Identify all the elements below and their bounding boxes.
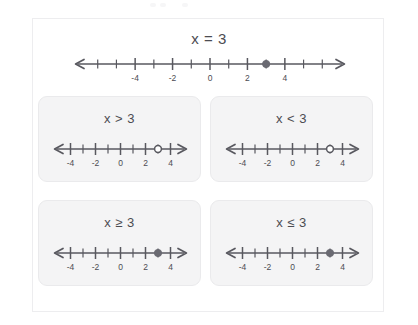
svg-text:0: 0: [290, 158, 295, 168]
svg-text:4: 4: [340, 262, 345, 272]
svg-text:-4: -4: [67, 158, 75, 168]
number-line-greater-or-equal: -4-2024: [49, 241, 192, 275]
svg-text:-2: -2: [169, 73, 177, 83]
svg-text:2: 2: [143, 262, 148, 272]
number-line-equals: -4-2024: [70, 52, 350, 86]
number-line-greater-than: -4-2024: [49, 137, 192, 171]
card-label: x ≥ 3: [39, 215, 200, 230]
card-less-than[interactable]: x < 3 -4-2024: [210, 96, 373, 182]
svg-text:4: 4: [168, 158, 173, 168]
scan-artifact: [160, 3, 166, 7]
svg-text:0: 0: [118, 262, 123, 272]
card-label: x ≤ 3: [211, 215, 372, 230]
svg-text:2: 2: [143, 158, 148, 168]
svg-text:2: 2: [245, 73, 250, 83]
svg-text:4: 4: [282, 73, 287, 83]
card-label: x < 3: [211, 111, 372, 126]
scan-artifact: [150, 3, 156, 7]
svg-text:0: 0: [118, 158, 123, 168]
card-less-or-equal[interactable]: x ≤ 3 -4-2024: [210, 200, 373, 286]
svg-text:0: 0: [290, 262, 295, 272]
svg-text:2: 2: [315, 262, 320, 272]
svg-text:-2: -2: [264, 158, 272, 168]
number-line-less-or-equal: -4-2024: [221, 241, 364, 275]
svg-text:-2: -2: [92, 262, 100, 272]
card-greater-or-equal[interactable]: x ≥ 3 -4-2024: [38, 200, 201, 286]
svg-text:-4: -4: [239, 158, 247, 168]
svg-text:2: 2: [315, 158, 320, 168]
card-label: x > 3: [39, 111, 200, 126]
inequality-card-grid: x > 3 -4-2024 x < 3 -4-2024 x ≥ 3 -4-202…: [38, 96, 380, 296]
svg-text:-4: -4: [131, 73, 139, 83]
figure-root: x = 3 -4-2024 x > 3 -4-2024 x < 3 -4-202…: [0, 0, 418, 325]
scan-artifact: [182, 3, 188, 7]
page-title: x = 3: [0, 30, 418, 47]
number-line-less-than: -4-2024: [221, 137, 364, 171]
svg-text:-4: -4: [239, 262, 247, 272]
svg-text:-4: -4: [67, 262, 75, 272]
svg-text:0: 0: [208, 73, 213, 83]
svg-text:-2: -2: [92, 158, 100, 168]
card-greater-than[interactable]: x > 3 -4-2024: [38, 96, 201, 182]
svg-text:4: 4: [340, 158, 345, 168]
svg-text:-2: -2: [264, 262, 272, 272]
svg-text:4: 4: [168, 262, 173, 272]
